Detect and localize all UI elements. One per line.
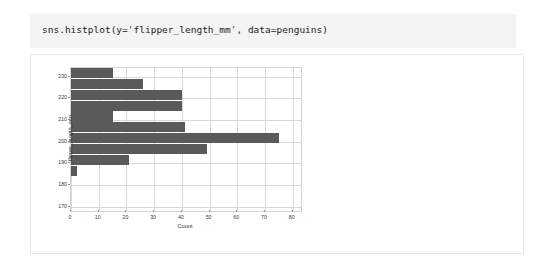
x-tick-mark	[181, 210, 182, 212]
code-source-text: sns.histplot(y='flipper_length_mm', data…	[42, 24, 328, 35]
x-tick-label: 50	[206, 214, 212, 220]
histogram-bar	[71, 111, 113, 121]
x-tick-label: 10	[95, 214, 101, 220]
plot-axes	[70, 67, 302, 212]
y-tick-label: 200	[58, 138, 67, 144]
code-input-cell[interactable]: sns.histplot(y='flipper_length_mm', data…	[30, 14, 516, 48]
y-tick-label: 220	[58, 94, 67, 100]
x-tick-mark	[125, 210, 126, 212]
x-tick-label: 70	[261, 214, 267, 220]
x-tick-mark	[153, 210, 154, 212]
histogram-bar	[71, 133, 279, 143]
x-tick-label: 40	[178, 214, 184, 220]
histogram-bar	[71, 155, 129, 165]
x-axis-label: Count	[70, 223, 300, 229]
histogram-bars	[71, 68, 301, 211]
x-tick-label: 80	[289, 214, 295, 220]
x-tick-mark	[98, 210, 99, 212]
histogram-bar	[71, 68, 113, 78]
notebook-cell-container: sns.histplot(y='flipper_length_mm', data…	[0, 0, 547, 276]
x-tick-mark	[292, 210, 293, 212]
y-tick-mark	[68, 76, 70, 77]
y-tick-mark	[68, 206, 70, 207]
y-tick-mark	[68, 97, 70, 98]
y-tick-label: 210	[58, 116, 67, 122]
x-tick-label: 20	[123, 214, 129, 220]
histogram-bar	[71, 79, 143, 89]
histogram-bar	[71, 122, 185, 132]
x-tick-mark	[70, 210, 71, 212]
x-tick-mark	[264, 210, 265, 212]
x-tick-mark	[209, 210, 210, 212]
y-tick-label: 180	[58, 181, 67, 187]
y-tick-label: 170	[58, 203, 67, 209]
x-tick-label: 30	[150, 214, 156, 220]
histogram-bar	[71, 166, 77, 176]
histogram-bar	[71, 101, 182, 111]
y-tick-label: 190	[58, 159, 67, 165]
code-output-cell: 230220210200190180170 01020304050607080 …	[30, 54, 524, 254]
y-tick-mark	[68, 162, 70, 163]
histogram-bar	[71, 90, 182, 100]
y-axis-label: flipper_length_mm	[67, 114, 73, 162]
x-tick-mark	[236, 210, 237, 212]
x-tick-label: 0	[69, 214, 72, 220]
histogram-bar	[71, 144, 207, 154]
y-tick-mark	[68, 184, 70, 185]
x-tick-label: 60	[233, 214, 239, 220]
matplotlib-figure: 230220210200190180170 01020304050607080 …	[34, 58, 334, 248]
y-tick-label: 230	[58, 73, 67, 79]
